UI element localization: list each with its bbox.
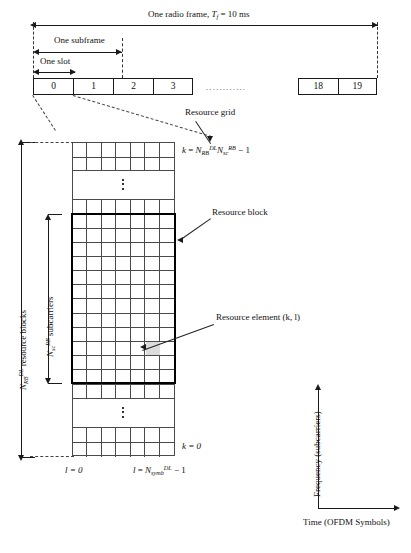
grid-top-rows <box>72 142 175 171</box>
resource-block-arrowhead <box>177 237 183 243</box>
grid-cell <box>145 229 159 242</box>
grid-row <box>73 385 174 399</box>
slot-label: One slot <box>40 57 70 66</box>
k-max-label: k = NRBDLNscRB − 1 <box>182 146 250 155</box>
rb-axis-sup: DL <box>17 369 24 377</box>
resource-element-label: Resource element (k, l) <box>216 313 300 322</box>
subframe-arrow-line <box>36 52 122 53</box>
l-min-label: l = 0 <box>65 466 83 475</box>
grid-cell <box>145 385 159 399</box>
grid-vertical-ellipsis-lower <box>113 405 133 420</box>
grid-cell <box>73 143 87 157</box>
grid-cell <box>145 215 159 228</box>
grid-cell <box>145 257 159 270</box>
grid-cell <box>102 342 116 355</box>
grid-row <box>73 328 174 342</box>
sc-axis-sup: RB <box>44 338 51 346</box>
radio-frame-caption: One radio frame, Tf = 10 ms <box>148 10 250 19</box>
grid-cell <box>116 299 130 312</box>
rb-axis-sub: RB <box>22 376 29 384</box>
grid-cell <box>160 314 174 327</box>
grid-cell <box>102 158 116 173</box>
grid-cell <box>87 143 101 157</box>
resource-blocks-axis-label: NRBDL resource blocks <box>18 310 28 390</box>
grid-cell <box>73 271 87 284</box>
radio-frame-value: = 10 ms <box>218 9 249 19</box>
grid-cell <box>102 314 116 327</box>
grid-cell <box>131 285 145 298</box>
sc-axis-text: subcarriers <box>45 297 55 339</box>
grid-cell <box>131 271 145 284</box>
grid-cell <box>116 356 130 369</box>
grid-cell <box>73 215 87 228</box>
legend-y-arrowhead <box>315 384 321 390</box>
grid-cell <box>160 200 174 214</box>
grid-cell <box>102 285 116 298</box>
k-max-tail: − 1 <box>236 145 250 155</box>
k-max-term2-sup: RB <box>228 144 236 151</box>
grid-cell <box>145 143 159 157</box>
resource-block-label: Resource block <box>212 208 268 217</box>
frame-right-guide <box>377 22 378 78</box>
grid-cell <box>145 271 159 284</box>
grid-cell <box>102 200 116 214</box>
grid-row <box>73 443 174 458</box>
grid-cell <box>102 328 116 341</box>
slot-cell-0[interactable]: 0 <box>34 79 74 94</box>
grid-cell <box>102 271 116 284</box>
grid-row <box>73 215 174 229</box>
grid-cell <box>73 257 87 270</box>
grid-cell <box>73 285 87 298</box>
grid-cell <box>116 428 130 442</box>
grid-cell <box>116 158 130 173</box>
grid-cell <box>87 257 101 270</box>
grid-row-above-rb <box>72 199 175 214</box>
grid-cell <box>102 356 116 369</box>
grid-row <box>73 257 174 271</box>
grid-cell <box>116 200 130 214</box>
grid-cell <box>102 385 116 399</box>
subframe-arrow-left <box>33 49 39 55</box>
grid-cell <box>116 257 130 270</box>
grid-cell <box>145 285 159 298</box>
grid-cell <box>145 356 159 369</box>
grid-cell <box>102 229 116 242</box>
grid-cell <box>160 385 174 399</box>
slot-cell-2[interactable]: 2 <box>114 79 154 94</box>
grid-cell <box>116 215 130 228</box>
grid-cell <box>145 314 159 327</box>
grid-cell <box>116 385 130 399</box>
slot-cell-1[interactable]: 1 <box>74 79 114 94</box>
grid-cell <box>145 428 159 442</box>
legend-x-axis-label: Time (OFDM Symbols) <box>303 518 390 527</box>
grid-row-below-rb <box>72 384 175 399</box>
subcarriers-tick-top <box>48 214 62 215</box>
slot-cell-18[interactable]: 18 <box>299 79 339 94</box>
grid-cell <box>160 370 174 384</box>
slot-row-tail: 18 19 <box>298 78 377 95</box>
resource-grid-arrowhead <box>207 136 213 142</box>
grid-cell <box>160 285 174 298</box>
slot-cell-3[interactable]: 3 <box>154 79 192 94</box>
projection-line-left <box>32 95 56 131</box>
grid-cell <box>73 428 87 442</box>
grid-cell <box>160 428 174 442</box>
grid-cell <box>102 299 116 312</box>
grid-bottom-guide <box>30 456 74 457</box>
resource-grid-label: Resource grid <box>185 108 235 117</box>
grid-cell <box>73 299 87 312</box>
grid-cell <box>131 200 145 214</box>
grid-cell <box>160 215 174 228</box>
grid-cell <box>87 215 101 228</box>
grid-row <box>73 143 174 158</box>
grid-cell <box>73 158 87 173</box>
rb-axis-text: resource blocks <box>18 310 28 368</box>
grid-cell <box>116 143 130 157</box>
l-min-text: l = 0 <box>65 465 83 475</box>
grid-row <box>73 428 174 443</box>
l-max-eq: = <box>136 465 146 475</box>
k-max-eq: = <box>186 145 196 155</box>
grid-cell <box>73 342 87 355</box>
slot-cell-19[interactable]: 19 <box>339 79 377 94</box>
subcarriers-axis-label: NscRB subcarriers <box>45 297 55 357</box>
